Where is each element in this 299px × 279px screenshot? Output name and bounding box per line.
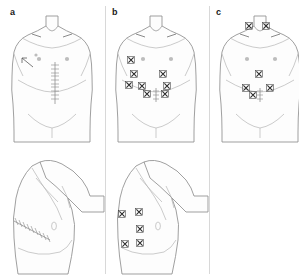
torso-outline-b (116, 16, 197, 142)
panel-a-lateral-torso (6, 152, 106, 274)
torso-outline-c (220, 16, 299, 142)
panel-b-lateral-torso (110, 152, 210, 274)
lateral-torso-outline-b (117, 160, 208, 274)
torso-outline-a (12, 16, 93, 142)
figure-canvas: a b c (0, 0, 299, 279)
panel-a-anterior-torso (8, 14, 102, 142)
panel-c-anterior-torso (216, 14, 299, 142)
lateral-torso-outline-a (13, 160, 104, 274)
panel-b-anterior-torso (112, 14, 206, 142)
